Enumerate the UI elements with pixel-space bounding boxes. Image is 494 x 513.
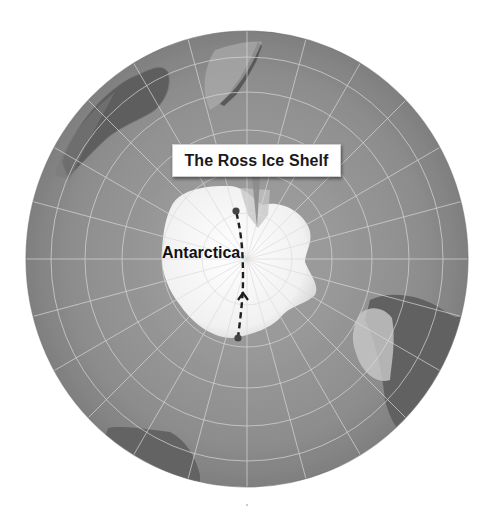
route-start-dot [234, 334, 241, 341]
antarctica-label: Antarctica [162, 244, 240, 262]
callout-label: The Ross Ice Shelf [184, 152, 328, 170]
callout-label-box: The Ross Ice Shelf [172, 144, 341, 177]
map-figure: The Ross Ice Shelf Antarctica [0, 0, 494, 513]
route-end-dot [232, 207, 239, 214]
globe-map [0, 0, 494, 513]
